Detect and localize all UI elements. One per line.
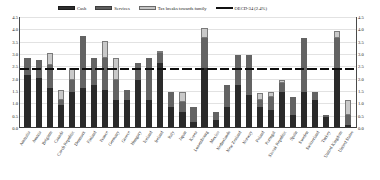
bar-stack[interactable] [24,58,30,127]
bar-column[interactable] [77,17,88,127]
bar-stack[interactable] [334,31,340,127]
bar-column[interactable] [221,17,232,127]
legend-label-oecd-average: OECD-34 (2.4%) [235,6,267,11]
bar-stack[interactable] [69,68,75,127]
bar-column[interactable] [33,17,44,127]
bar-stack[interactable] [36,60,42,127]
bar-column[interactable] [155,17,166,127]
x-label-slot: Mexico [210,129,221,180]
x-axis-label: France [98,130,109,143]
bar-stack[interactable] [235,55,241,127]
bar-column[interactable] [111,17,122,127]
bar-column[interactable] [243,17,254,127]
bar-column[interactable] [55,17,66,127]
x-label-slot: France [99,129,110,180]
x-axis-label: Korea [188,130,198,142]
x-label-slot: Greece [121,129,132,180]
bar-segment-services [290,97,296,114]
bar-column[interactable] [265,17,276,127]
bar-stack[interactable] [146,58,152,127]
bar-column[interactable] [122,17,133,127]
bar-column[interactable] [144,17,155,127]
bar-stack[interactable] [190,107,196,127]
x-axis-label: Ireland [153,130,164,143]
bar-stack[interactable] [58,90,64,127]
bar-column[interactable] [66,17,77,127]
bar-column[interactable] [22,17,33,127]
x-label-slot: New Zealand [233,129,244,180]
bar-segment-services [246,55,252,94]
x-label-slot: Australia [21,129,32,180]
bar-segment-services [69,80,75,92]
y-tick-left: 1.0 [2,101,18,106]
legend-item-cash: Cash [58,6,86,11]
y-tick-left: 2.0 [2,76,18,81]
bar-stack[interactable] [102,41,108,127]
bar-column[interactable] [88,17,99,127]
x-label-slot: United States [344,129,355,180]
bar-segment-services [334,38,340,70]
bar-column[interactable] [332,17,343,127]
bar-segment-tax-breaks [179,92,185,102]
bar-stack[interactable] [290,97,296,127]
bar-column[interactable] [299,17,310,127]
bar-stack[interactable] [301,38,307,127]
y-tick-right: 0.0 [358,126,374,131]
bar-stack[interactable] [168,92,174,127]
y-axis-left: 0.00.51.01.52.02.53.03.54.04.5 [2,17,18,128]
bar-stack[interactable] [323,115,329,127]
bar-stack[interactable] [179,92,185,127]
bar-column[interactable] [310,17,321,127]
y-tick-right: 4.5 [358,15,374,20]
bar-stack[interactable] [124,90,130,127]
bar-stack[interactable] [213,112,219,127]
bar-stack[interactable] [257,93,263,128]
bar-stack[interactable] [201,28,207,127]
bar-column[interactable] [288,17,299,127]
bar-stack[interactable] [113,58,119,127]
bar-stack[interactable] [91,58,97,127]
bar-column[interactable] [343,17,354,127]
x-axis-label: Italy [167,130,176,140]
bar-stack[interactable] [268,92,274,127]
bar-stack[interactable] [312,92,318,127]
bar-segment-cash [80,88,86,127]
bar-column[interactable] [254,17,265,127]
bar-stack[interactable] [246,55,252,127]
x-axis-label: Hungary [130,130,143,146]
bar-segment-services [224,85,230,107]
bar-stack[interactable] [279,80,285,127]
bar-stack[interactable] [224,85,230,127]
bar-stack[interactable] [80,36,86,127]
bar-column[interactable] [166,17,177,127]
bar-column[interactable] [199,17,210,127]
bar-stack[interactable] [345,100,351,127]
bar-column[interactable] [44,17,55,127]
bar-column[interactable] [99,17,110,127]
bar-column[interactable] [232,17,243,127]
x-label-slot: Sweden [300,129,311,180]
bar-column[interactable] [276,17,287,127]
bar-segment-tax-breaks [47,53,53,65]
bar-stack[interactable] [157,51,163,127]
bar-column[interactable] [210,17,221,127]
x-axis-label: Australia [18,130,31,147]
bar-stack[interactable] [47,53,53,127]
bar-column[interactable] [177,17,188,127]
bar-column[interactable] [188,17,199,127]
bar-segment-cash [24,75,30,127]
bar-segment-services [235,55,241,85]
bar-column[interactable] [321,17,332,127]
bar-segment-cash [113,100,119,127]
bar-segment-cash [102,90,108,127]
bar-column[interactable] [133,17,144,127]
bar-stack[interactable] [135,63,141,127]
bar-segment-tax-breaks [345,100,351,115]
bar-segment-services [213,112,219,119]
bar-segment-cash [257,107,263,127]
x-label-slot: Netherlands [222,129,233,180]
bar-segment-cash [323,117,329,127]
bar-segment-tax-breaks [201,28,207,38]
bar-segment-cash [135,80,141,127]
x-axis-label: Spain [288,130,298,141]
